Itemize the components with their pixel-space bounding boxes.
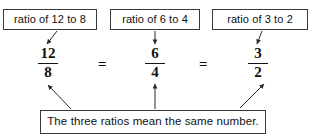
caption-box: The three ratios mean the same number. [40,110,266,134]
fraction-twelve-eighths: 12 8 [28,46,68,81]
ratio-equivalence-diagram: ratio of 12 to 8 ratio of 6 to 4 ratio o… [0,0,314,136]
ratio-label-text-2: ratio of 6 to 4 [122,14,188,25]
equals-sign-2-glyph: = [199,56,208,72]
ratio-label-box-3: ratio of 3 to 2 [212,9,308,30]
arrow-caption-to-fraction1 [48,85,71,109]
equals-sign-1: = [98,57,107,72]
ratio-label-box-1: ratio of 12 to 8 [3,9,97,30]
equals-sign-1-glyph: = [98,56,107,72]
fraction-numerator-2: 6 [135,46,175,62]
arrow-caption-to-fraction3 [240,84,264,108]
fraction-denominator-3: 2 [238,65,278,81]
fraction-denominator-2: 4 [135,65,175,81]
ratio-label-box-2: ratio of 6 to 4 [110,9,200,30]
arrow-label1-to-fraction1 [47,31,57,44]
fraction-denominator-1: 8 [28,65,68,81]
equals-sign-2: = [199,57,208,72]
fraction-numerator-3: 3 [238,46,278,62]
fraction-six-fourths: 6 4 [135,46,175,81]
caption-text: The three ratios mean the same number. [47,116,259,128]
fraction-numerator-1: 12 [28,46,68,62]
ratio-label-text-3: ratio of 3 to 2 [227,14,293,25]
fraction-three-halves: 3 2 [238,46,278,81]
ratio-label-text-1: ratio of 12 to 8 [14,14,86,25]
arrow-label3-to-fraction3 [257,31,262,44]
